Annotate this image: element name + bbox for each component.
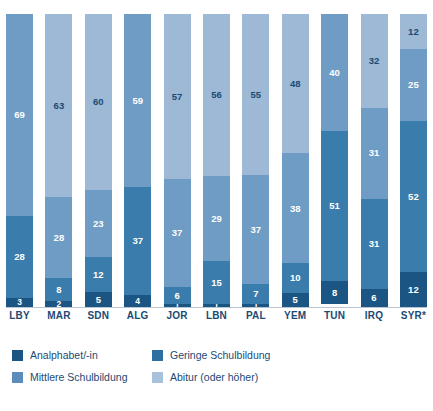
segment-value-label: 29 [211,214,222,224]
segment-value-label: 15 [211,278,222,288]
bar-segment: 6 [164,287,191,304]
bar-irq: 3231316 [361,14,388,307]
bar-segment: 4 [124,295,151,307]
segment-value-label: 59 [132,96,143,106]
segment-value-label: 3 [17,298,22,307]
bar-segment: 31 [361,108,388,199]
segment-value-label: 37 [251,225,262,235]
x-tick-label: PAL [242,310,269,328]
segment-value-label: 25 [408,80,419,90]
bar-segment: 12 [400,14,427,49]
bar-mar: 632882 [45,14,72,307]
bar-pal: 553771 [242,14,269,307]
bar-segment: 40 [321,14,348,131]
bar-syr: 12255212 [400,14,427,307]
segment-value-label: 12 [93,270,104,280]
legend-label: Analphabet/-in [30,349,98,361]
legend-swatch [152,350,163,361]
bar-segment: 32 [361,14,388,108]
bar-segment: 69 [6,14,33,216]
segment-value-label: 31 [369,239,380,249]
bar-segment: 23 [85,190,112,257]
segment-value-label: 5 [96,295,101,305]
legend-item[interactable]: Analphabet/-in [12,349,152,361]
bar-segment: 5 [85,292,112,307]
x-axis-labels: LBYMARSDNALGJORLBNPALYEMTUNIRQSYR* [6,310,427,328]
bar-segment: 28 [6,216,33,298]
segment-value-label: 31 [369,148,380,158]
bar-segment: 8 [321,281,348,304]
legend-swatch [12,372,23,383]
bar-segment: 55 [242,14,269,175]
bar-segment: 8 [45,278,72,301]
bar-alg: 59374 [124,14,151,307]
segment-value-label: 32 [369,56,380,66]
bar-segment: 12 [400,272,427,307]
segment-value-label: 6 [174,291,179,301]
legend-swatch [12,350,23,361]
segment-value-label: 7 [253,289,258,299]
x-tick-label: SDN [85,310,112,328]
segment-value-label: 10 [290,273,301,283]
segment-value-label: 4 [135,297,140,306]
segment-value-label: 38 [290,204,301,214]
segment-value-label: 8 [56,285,61,295]
stacked-bar-chart: 6928363288260231255937457376156291515537… [0,0,433,411]
x-tick-label: SYR* [400,310,427,328]
bar-segment: 7 [242,284,269,305]
legend-label: Geringe Schulbildung [170,349,270,361]
segment-value-label: 8 [332,288,337,298]
bar-segment: 12 [85,257,112,292]
bar-segment: 6 [361,289,388,307]
segment-value-label: 23 [93,219,104,229]
bar-segment: 37 [242,175,269,283]
bar-segment: 28 [45,197,72,278]
chart-legend: Analphabet/-inGeringe SchulbildungMittle… [12,344,312,388]
bar-yem: 4838105 [282,14,309,307]
bar-segment: 5 [282,293,309,308]
segment-value-label: 6 [371,293,376,303]
segment-value-label: 51 [329,201,340,211]
segment-value-label: 5 [293,295,298,305]
bar-segment: 10 [282,263,309,292]
bar-sdn: 6023125 [85,14,112,307]
bar-segment: 56 [203,14,230,176]
legend-swatch [152,372,163,383]
bar-segment: 60 [85,14,112,190]
bar-lbn: 5629151 [203,14,230,307]
plot-area: 6928363288260231255937457376156291515537… [6,14,427,307]
bar-segment: 48 [282,14,309,153]
x-tick-label: JOR [164,310,191,328]
x-tick-label: TUN [321,310,348,328]
segment-value-label: 55 [251,90,262,100]
x-tick-label: ALG [124,310,151,328]
segment-value-label: 28 [14,252,25,262]
x-tick-label: LBN [203,310,230,328]
bar-segment: 31 [361,199,388,290]
legend-item[interactable]: Geringe Schulbildung [152,349,312,361]
bar-segment: 25 [400,49,427,122]
bar-jor: 573761 [164,14,191,307]
segment-value-label: 48 [290,79,301,89]
x-tick-label: YEM [282,310,309,328]
bar-segment: 51 [321,131,348,280]
segment-value-label: 60 [93,97,104,107]
bar-segment: 3 [6,298,33,307]
segment-value-label: 63 [54,101,65,111]
segment-value-label: 52 [408,192,419,202]
x-axis-line [6,307,427,308]
segment-value-label: 57 [172,92,183,102]
segment-value-label: 28 [54,233,65,243]
bar-segment: 37 [164,179,191,286]
segment-value-label: 12 [408,285,419,295]
legend-item[interactable]: Mittlere Schulbildung [12,371,152,383]
bar-segment: 63 [45,14,72,197]
bar-segment: 29 [203,176,230,260]
bar-tun: 40518 [321,14,348,307]
segment-value-label: 40 [329,68,340,78]
bar-segment: 37 [124,187,151,295]
bar-segment: 59 [124,14,151,187]
legend-item[interactable]: Abitur (oder höher) [152,371,312,383]
bar-segment: 57 [164,14,191,179]
x-tick-label: IRQ [361,310,388,328]
